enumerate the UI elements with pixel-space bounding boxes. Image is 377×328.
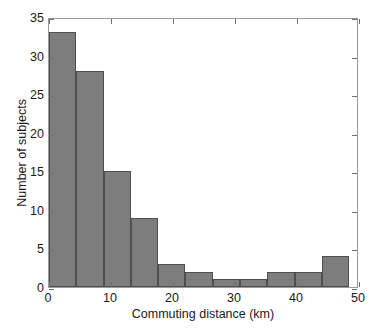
x-tick-mark: [111, 282, 112, 287]
histogram-bar: [295, 272, 322, 287]
y-tick-mark: [49, 135, 54, 136]
y-tick-label: 5: [37, 243, 44, 256]
y-tick-mark: [352, 96, 357, 97]
x-tick-label: 0: [45, 292, 52, 305]
y-tick-mark: [49, 96, 54, 97]
y-tick-mark: [352, 212, 357, 213]
y-tick-label: 25: [30, 89, 44, 102]
x-tick-label: 30: [227, 292, 241, 305]
x-tick-mark: [235, 282, 236, 287]
y-tick-label: 35: [30, 12, 44, 25]
bars-layer: [49, 19, 357, 287]
y-tick-label: 20: [30, 127, 44, 140]
plot-area: [48, 18, 358, 288]
x-tick-label: 20: [165, 292, 179, 305]
histogram-bar: [104, 171, 131, 287]
histogram-bar: [131, 218, 158, 287]
y-tick-mark: [352, 173, 357, 174]
y-tick-label: 10: [30, 205, 44, 218]
y-tick-mark: [352, 135, 357, 136]
y-tick-mark: [352, 19, 357, 20]
x-tick-mark: [359, 19, 360, 24]
x-tick-label: 40: [289, 292, 303, 305]
y-axis-title: Number of subjects: [16, 53, 30, 253]
histogram-bar: [267, 272, 294, 287]
x-tick-mark: [235, 19, 236, 24]
histogram-bar: [240, 279, 267, 287]
x-tick-mark: [173, 282, 174, 287]
x-tick-mark: [49, 19, 50, 24]
x-tick-mark: [359, 282, 360, 287]
y-tick-label: 15: [30, 166, 44, 179]
y-tick-mark: [352, 58, 357, 59]
x-tick-mark: [111, 19, 112, 24]
x-tick-mark: [49, 282, 50, 287]
x-axis-tick-labels: 01020304050: [48, 292, 358, 308]
y-tick-mark: [49, 58, 54, 59]
histogram-bar: [185, 272, 212, 287]
y-tick-label: 0: [37, 282, 44, 295]
y-tick-label: 30: [30, 50, 44, 63]
x-tick-mark: [297, 282, 298, 287]
y-tick-mark: [49, 289, 54, 290]
x-tick-mark: [297, 19, 298, 24]
x-axis-title: Commuting distance (km): [48, 308, 358, 322]
y-tick-mark: [49, 212, 54, 213]
y-tick-mark: [352, 289, 357, 290]
y-tick-mark: [49, 173, 54, 174]
histogram-bar: [158, 264, 185, 287]
y-tick-mark: [352, 250, 357, 251]
x-tick-mark: [173, 19, 174, 24]
histogram-bar: [49, 32, 76, 287]
histogram-bar: [76, 71, 103, 287]
x-tick-label: 50: [351, 292, 365, 305]
y-tick-mark: [49, 250, 54, 251]
histogram-bar: [322, 256, 349, 287]
x-tick-label: 10: [103, 292, 117, 305]
histogram-figure: 05101520253035 01020304050 Commuting dis…: [0, 0, 377, 328]
